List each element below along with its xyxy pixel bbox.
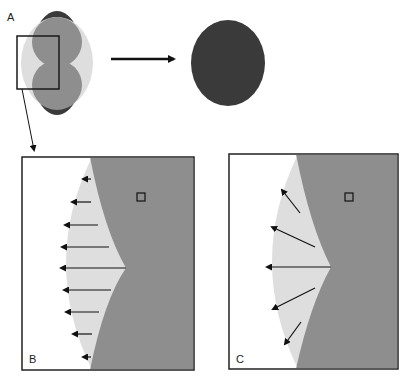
panel-a-label: A <box>7 11 15 23</box>
panel-a: A <box>7 11 93 150</box>
zoom-pointer-arrow <box>22 89 34 150</box>
panel-b-label: B <box>29 353 36 365</box>
lower-lobe <box>32 60 82 110</box>
rounded-cell <box>191 20 265 106</box>
panel-b: B <box>22 157 194 370</box>
panel-c-label: C <box>236 353 244 365</box>
diagram-canvas: A <box>0 0 409 380</box>
upper-lobe <box>32 17 82 67</box>
panel-c: C <box>229 154 398 369</box>
